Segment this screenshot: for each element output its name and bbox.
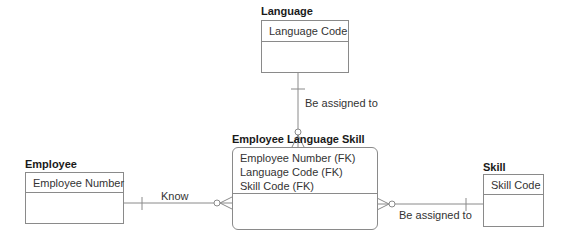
crowfoot-employee-top [220,197,232,203]
relationship-label-skill: Be assigned to [399,209,472,221]
key-attributes: Employee Number (FK) Language Code (FK) … [233,148,377,194]
attribute-language-code-fk: Language Code (FK) [240,165,370,179]
crowfoot-skill-top [377,198,389,204]
key-attributes: Employee Number [26,173,123,193]
relationship-label-language: Be assigned to [305,97,378,109]
entity-title-employee-language-skill: Employee Language Skill [232,133,365,145]
entity-skill[interactable]: Skill Code [483,174,544,227]
attribute-language-code: Language Code [269,24,341,38]
key-attributes: Skill Code [484,175,543,195]
entity-title-employee: Employee [25,158,77,170]
attribute-skill-code: Skill Code [491,178,536,192]
entity-title-language: Language [261,5,313,17]
entity-title-skill: Skill [483,161,506,173]
entity-employee[interactable]: Employee Number [25,172,124,224]
crowfoot-employee-bottom [220,203,232,209]
attribute-skill-code-fk: Skill Code (FK) [240,179,370,193]
key-attributes: Language Code [262,21,348,42]
optional-circle-employee [214,200,220,206]
attribute-employee-number: Employee Number [33,176,116,190]
optional-circle-skill [389,201,395,207]
entity-language[interactable]: Language Code [261,20,349,73]
entity-employee-language-skill[interactable]: Employee Number (FK) Language Code (FK) … [232,147,378,230]
relationship-label-employee: Know [161,190,189,202]
attribute-employee-number-fk: Employee Number (FK) [240,151,370,165]
crowfoot-skill-bottom [377,204,389,210]
